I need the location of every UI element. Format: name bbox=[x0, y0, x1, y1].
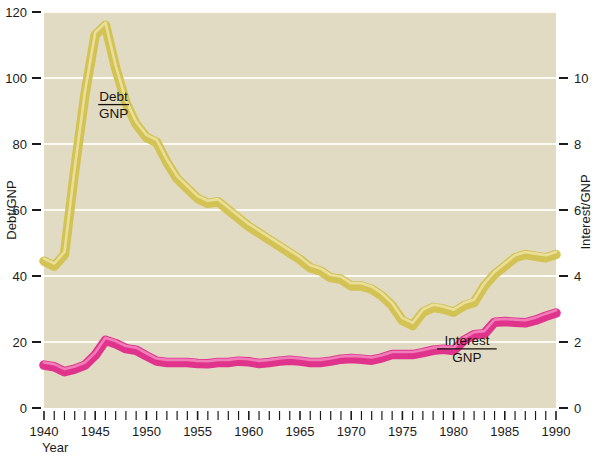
y-right-tick-label-10: 10 bbox=[574, 71, 588, 86]
y-right-tick-label-4: 4 bbox=[574, 269, 581, 284]
interest-gnp-label-numerator: Interest bbox=[444, 333, 489, 348]
x-tick-label-1960: 1960 bbox=[234, 424, 263, 439]
x-tick-label-1950: 1950 bbox=[132, 424, 161, 439]
x-tick-label-1980: 1980 bbox=[439, 424, 468, 439]
x-tick-label-1940: 1940 bbox=[30, 424, 59, 439]
y-right-tick-label-2: 2 bbox=[574, 335, 581, 350]
y-right-tick-label-8: 8 bbox=[574, 137, 581, 152]
debt-and-interest-to-gnp-chart: 1940194519501955196019651970197519801985… bbox=[0, 0, 604, 460]
y-left-tick-label-80: 80 bbox=[13, 137, 27, 152]
y-right-tick-label-0: 0 bbox=[574, 401, 581, 416]
y-axis-left-title: Debt/GNP bbox=[4, 180, 19, 239]
x-tick-label-1990: 1990 bbox=[542, 424, 571, 439]
x-tick-label-1985: 1985 bbox=[490, 424, 519, 439]
x-tick-label-1965: 1965 bbox=[286, 424, 315, 439]
x-tick-label-1975: 1975 bbox=[388, 424, 417, 439]
chart-figure: 1940194519501955196019651970197519801985… bbox=[0, 0, 604, 460]
y-left-tick-label-40: 40 bbox=[13, 269, 27, 284]
x-axis-ticks-group: 1940194519501955196019651970197519801985… bbox=[30, 411, 571, 439]
y-left-tick-label-0: 0 bbox=[20, 401, 27, 416]
x-tick-label-1970: 1970 bbox=[337, 424, 366, 439]
debt-gnp-label-numerator: Debt bbox=[99, 89, 128, 104]
x-tick-label-1955: 1955 bbox=[183, 424, 212, 439]
y-left-tick-label-100: 100 bbox=[5, 71, 27, 86]
debt-gnp-label: DebtGNP bbox=[98, 89, 129, 121]
y-axis-right-title: Interest/GNP bbox=[578, 174, 593, 249]
debt-gnp-label-denominator: GNP bbox=[99, 106, 128, 121]
x-tick-label-1945: 1945 bbox=[81, 424, 110, 439]
y-left-tick-label-20: 20 bbox=[13, 335, 27, 350]
y-left-tick-label-120: 120 bbox=[5, 5, 27, 20]
x-axis-title: Year bbox=[42, 440, 69, 455]
interest-gnp-label-denominator: GNP bbox=[452, 350, 481, 365]
